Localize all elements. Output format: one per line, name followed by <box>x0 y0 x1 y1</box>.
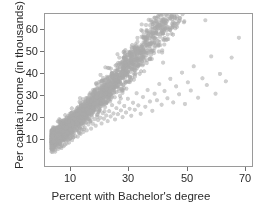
x-tick-label-0: 10 <box>55 172 85 184</box>
y-tick-3 <box>40 73 44 74</box>
x-tick-3 <box>245 167 246 171</box>
y-tick-2 <box>40 95 44 96</box>
y-tick-0 <box>40 139 44 140</box>
x-tick-0 <box>70 167 71 171</box>
x-tick-label-2: 50 <box>172 172 202 184</box>
x-tick-label-1: 30 <box>113 172 143 184</box>
plot-area <box>44 13 253 167</box>
scatter-plot-figure: 10 30 50 70 10 20 30 40 50 60 Percent wi… <box>0 0 262 213</box>
x-tick-label-3: 70 <box>230 172 260 184</box>
y-axis-label: Per capita income (in thousands) <box>13 0 25 175</box>
y-tick-4 <box>40 51 44 52</box>
x-axis-label: Percent with Bachelor's degree <box>0 190 262 202</box>
x-tick-2 <box>187 167 188 171</box>
y-tick-5 <box>40 29 44 30</box>
y-tick-1 <box>40 117 44 118</box>
y-axis-label-wrapper: Per capita income (in thousands) <box>13 0 27 175</box>
data-points-layer <box>45 14 252 166</box>
x-tick-1 <box>128 167 129 171</box>
